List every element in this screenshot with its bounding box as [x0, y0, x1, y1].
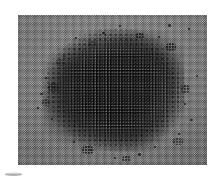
scatter-clump — [173, 138, 183, 145]
scatter-speck — [75, 37, 77, 39]
scatter-speck — [119, 25, 121, 27]
scatter-speck — [114, 157, 116, 159]
scatter-speck — [102, 32, 105, 34]
scatter-clump — [136, 33, 144, 39]
scatter-speck — [190, 119, 193, 121]
scatter-speck — [37, 107, 39, 109]
scatter-speck — [45, 77, 47, 79]
scatter-speck — [63, 55, 65, 57]
scatter-clump — [122, 156, 131, 162]
scatter-speck — [168, 24, 171, 27]
scatter-clump — [88, 41, 97, 48]
scatter-clump — [56, 59, 65, 66]
figure-root — [0, 0, 222, 182]
scatter-speck — [73, 141, 75, 143]
scatter-speck — [154, 146, 156, 148]
scatter-speck — [138, 153, 141, 156]
micrograph-image — [18, 15, 207, 165]
scatter-clump — [82, 146, 94, 154]
scatter-speck — [188, 28, 190, 30]
caption-remnant-mark — [5, 172, 22, 176]
scatter-speck — [178, 133, 180, 135]
scatter-clump — [166, 43, 176, 51]
scatter-speck — [196, 75, 198, 77]
scatter-clump — [42, 99, 50, 106]
scatter-speck — [51, 118, 53, 120]
scatter-speck — [40, 93, 43, 95]
scatter-speck — [158, 36, 160, 38]
scatter-clump — [181, 85, 190, 93]
scatter-speck — [184, 103, 186, 105]
scatter-clump — [48, 83, 59, 92]
